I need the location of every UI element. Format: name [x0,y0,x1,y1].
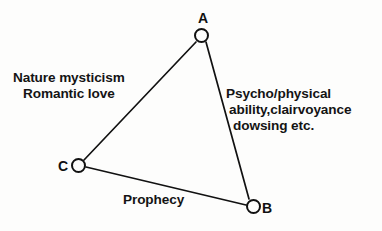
node-b-label: B [262,201,272,215]
edge-label-prophecy: Prophecy [123,192,184,208]
edge-label-psycho-physical: Psycho/physical ability,clairvoyance dow… [226,86,351,134]
edge-label-line: Nature mysticism [13,70,125,86]
edge-label-line: ability,clairvoyance [226,102,351,118]
node-a-label: A [198,11,208,25]
edge-label-line: dowsing etc. [226,118,351,134]
node-a-circle [194,28,209,43]
edge-label-nature-mysticism: Nature mysticism Romantic love [13,70,125,102]
node-c-label: C [58,159,68,173]
triangle-diagram: A C B Nature mysticism Romantic love Psy… [0,0,382,231]
edge-label-line: Psycho/physical [226,86,351,102]
node-b-circle [246,199,261,214]
edge-label-line: Romantic love [13,86,125,102]
node-c-circle [71,158,86,173]
